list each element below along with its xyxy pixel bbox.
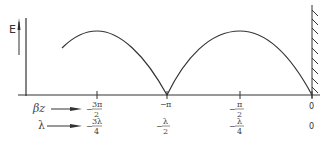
tick-label-neg-lambda-2: − λ 2: [156, 117, 170, 136]
svg-text:3π: 3π: [92, 100, 102, 109]
standing-wave-diagram: E βz λ − 3π 2 − 3λ: [0, 0, 328, 145]
svg-text:−: −: [229, 122, 236, 131]
svg-text:λ: λ: [163, 117, 168, 126]
svg-text:π: π: [166, 100, 171, 109]
tick-label-neg-3lambda-4: − 3λ 4: [86, 117, 102, 136]
beta-z-arrow-icon: [51, 107, 82, 111]
svg-text:π: π: [237, 100, 242, 109]
svg-text:λ: λ: [237, 117, 242, 126]
conducting-wall: [312, 5, 318, 98]
svg-text:4: 4: [237, 127, 242, 136]
beta-z-row-label: βz: [32, 102, 45, 115]
svg-text:−: −: [156, 122, 163, 131]
svg-text:2: 2: [163, 127, 168, 136]
lambda-row-label: λ: [38, 119, 45, 132]
tick-label-neg-lambda-4: − λ 4: [229, 117, 244, 136]
svg-text:3λ: 3λ: [92, 117, 102, 126]
e-axis-label: E: [9, 23, 16, 36]
tick-label-zero-phase: 0: [309, 102, 314, 111]
tick-label-neg-pi: − π: [160, 100, 171, 109]
tick-label-zero-lambda: 0: [309, 122, 314, 131]
svg-text:−: −: [229, 105, 236, 114]
standing-wave-curve: [62, 31, 312, 95]
svg-text:4: 4: [94, 127, 99, 136]
lambda-arrow-icon: [47, 124, 82, 128]
e-field-arrow-icon: [18, 18, 21, 55]
